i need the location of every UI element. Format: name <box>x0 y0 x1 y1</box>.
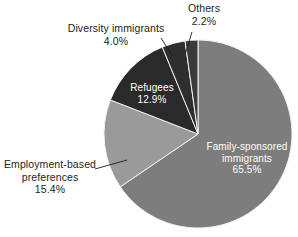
pie-label-diversity-immigrants-name: Diversity immigrants <box>55 22 177 35</box>
pie-label-family-sponsored-immigrants: Family-sponsored immigrants 65.5% <box>206 141 288 176</box>
pie-label-refugees-name: Refugees <box>120 82 184 94</box>
pie-label-family-sponsored-name-line2: immigrants <box>206 153 288 165</box>
pie-label-employment-based-value: 15.4% <box>2 183 98 196</box>
pie-chart: Others 2.2% Diversity immigrants 4.0% Em… <box>0 0 298 237</box>
pie-label-employment-based-name-line2: preferences <box>2 171 98 184</box>
pie-label-diversity-immigrants-value: 4.0% <box>55 35 177 48</box>
pie-label-employment-based-name-line1: Employment-based <box>2 158 98 171</box>
pie-label-family-sponsored-name-line1: Family-sponsored <box>206 141 288 153</box>
pie-label-others-name: Others <box>178 2 230 15</box>
pie-slices <box>104 40 292 228</box>
pie-label-others-value: 2.2% <box>178 15 230 28</box>
pie-label-refugees: Refugees 12.9% <box>120 82 184 105</box>
pie-label-others: Others 2.2% <box>178 2 230 27</box>
pie-label-employment-based-preferences: Employment-based preferences 15.4% <box>2 158 98 196</box>
pie-label-refugees-value: 12.9% <box>120 94 184 106</box>
pie-label-family-sponsored-value: 65.5% <box>206 164 288 176</box>
pie-label-diversity-immigrants: Diversity immigrants 4.0% <box>55 22 177 47</box>
